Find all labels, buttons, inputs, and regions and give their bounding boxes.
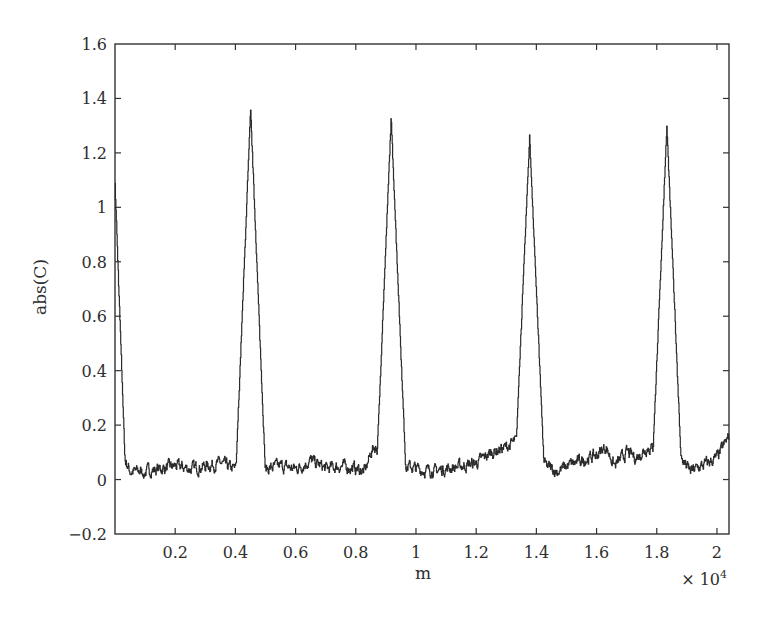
- x-axis-multiplier: × 104: [681, 568, 727, 589]
- y-tick-label: −0.2: [68, 525, 107, 544]
- x-tick-label: 0.6: [283, 543, 308, 562]
- y-tick-label: 0.2: [82, 416, 107, 435]
- y-tick-label: 1.2: [82, 144, 107, 163]
- line-chart: −0.200.20.40.60.811.21.41.6 0.20.40.60.8…: [0, 0, 771, 623]
- x-tick-label: 1.4: [524, 543, 549, 562]
- plot-frame: [115, 44, 729, 534]
- y-tick-label: 1.4: [82, 89, 107, 108]
- x-tick-label: 1.8: [644, 543, 669, 562]
- x-tick-label: 2: [712, 543, 722, 562]
- y-tick-label: 0.6: [82, 307, 107, 326]
- x-multiplier-exponent: 4: [720, 568, 727, 581]
- x-axis-label: m: [415, 563, 431, 583]
- y-axis-label: abs(C): [30, 259, 50, 315]
- x-tick-label: 0.2: [162, 543, 187, 562]
- x-tick-label: 1: [411, 543, 421, 562]
- x-tick-label: 1.6: [584, 543, 609, 562]
- y-tick-label: 0.8: [82, 253, 107, 272]
- x-tick-label: 0.4: [223, 543, 248, 562]
- x-tick-label: 0.8: [343, 543, 368, 562]
- y-tick-label: 0: [97, 471, 107, 490]
- y-tick-label: 1.6: [82, 35, 107, 54]
- y-tick-label: 1: [97, 198, 107, 217]
- x-multiplier-base: × 10: [681, 570, 720, 589]
- y-tick-label: 0.4: [82, 362, 107, 381]
- plot-area: [115, 44, 729, 534]
- x-tick-label: 1.2: [463, 543, 488, 562]
